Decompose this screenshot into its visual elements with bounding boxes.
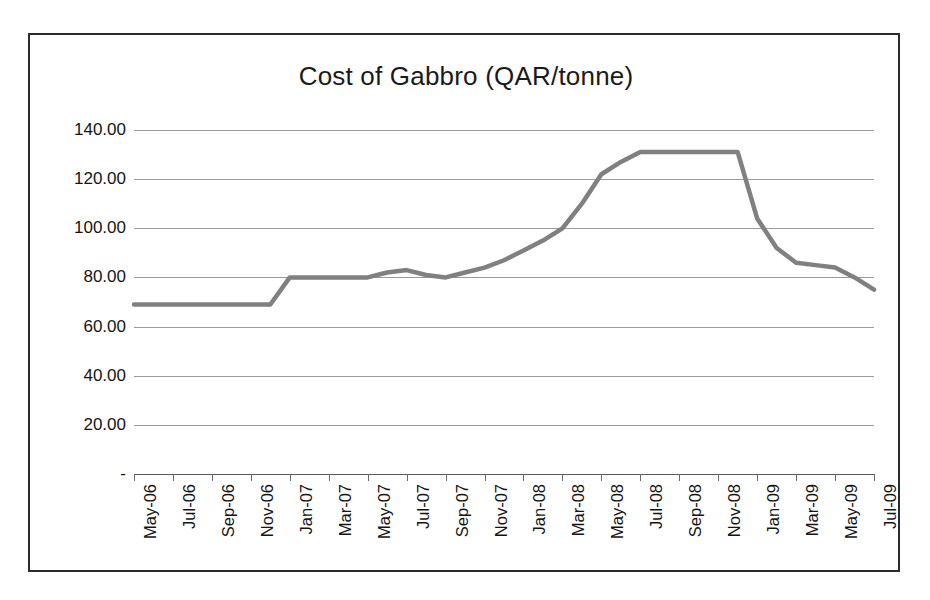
x-axis-tick-label: Nov-08 [725,484,744,537]
x-axis-tick [407,474,408,481]
x-axis-tick-label: Mar-09 [803,484,822,536]
y-axis-tick-label: - [40,464,126,484]
x-axis-tick [523,474,524,481]
x-axis-tick-label: Jul-06 [180,484,199,529]
x-axis-tick [796,474,797,481]
x-axis-tick [640,474,641,481]
x-axis-tick-label: Sep-07 [453,484,472,537]
x-axis-tick [212,474,213,481]
y-axis-tick-label: 120.00 [40,169,126,189]
x-axis-tick [134,474,135,481]
x-axis-tick-label: Mar-08 [569,484,588,536]
x-axis-tick-label: May-07 [375,484,394,539]
x-axis-tick-label: Nov-06 [258,484,277,537]
x-axis-tick-label: Jul-09 [881,484,900,529]
y-axis-tick-label: 100.00 [40,218,126,238]
x-axis-tick [874,474,875,481]
x-axis-tick-label: May-06 [141,484,160,539]
x-axis-tick-label: Sep-06 [219,484,238,537]
x-axis-tick-label: Mar-07 [336,484,355,536]
y-axis-tick-label: 40.00 [40,366,126,386]
x-axis-tick [679,474,680,481]
x-axis-tick-label: Jul-08 [647,484,666,529]
x-axis-tick-label: May-08 [608,484,627,539]
x-axis-tick [835,474,836,481]
x-axis-tick [368,474,369,481]
series-line-cost-of-gabbro [134,130,874,474]
x-axis-tick-label: Jan-07 [297,484,316,534]
x-axis-tick-label: Jan-08 [530,484,549,534]
x-axis-tick [562,474,563,481]
x-axis-tick-label: May-09 [842,484,861,539]
chart-title: Cost of Gabbro (QAR/tonne) [30,61,902,92]
chart-frame: Cost of Gabbro (QAR/tonne) 140.00120.001… [28,33,900,572]
x-axis-tick [251,474,252,481]
x-axis-tick [757,474,758,481]
x-axis-ticks [134,474,874,482]
x-axis-tick-label: Nov-07 [492,484,511,537]
x-axis-tick [290,474,291,481]
x-axis-tick [446,474,447,481]
y-axis-tick-label: 80.00 [40,267,126,287]
x-axis-tick [718,474,719,481]
y-axis-tick-labels: 140.00120.00100.0080.0060.0040.0020.00- [30,130,126,474]
x-axis-tick [601,474,602,481]
screenshot-root: Cost of Gabbro (QAR/tonne) 140.00120.001… [0,0,930,600]
y-axis-tick-label: 20.00 [40,415,126,435]
x-axis-tick [329,474,330,481]
x-axis-tick-label: Jan-09 [764,484,783,534]
x-axis-tick-label: Sep-08 [686,484,705,537]
x-axis-tick [173,474,174,481]
plot-area [134,130,874,474]
x-axis-tick-labels: May-06Jul-06Sep-06Nov-06Jan-07Mar-07May-… [134,484,874,574]
y-axis-tick-label: 60.00 [40,317,126,337]
y-axis-tick-label: 140.00 [40,120,126,140]
x-axis-tick-label: Jul-07 [414,484,433,529]
x-axis-tick [485,474,486,481]
